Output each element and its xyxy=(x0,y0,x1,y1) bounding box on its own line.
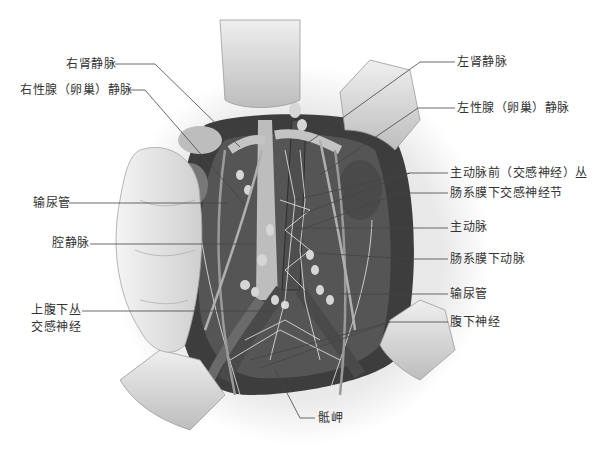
label-right-renal-vein: 右肾静脉 xyxy=(66,57,116,71)
label-left-gonadal-vein: 左性腺（卵巢）静脉 xyxy=(457,101,570,115)
kidney xyxy=(338,160,382,220)
label-hypogastric-nerve: 腹下神经 xyxy=(450,315,500,329)
label-preaortic-plexus: 主动脉前（交感神经）丛 xyxy=(450,166,588,180)
label-ureter-left: 输尿管 xyxy=(33,196,71,210)
label-vena-cava: 腔静脉 xyxy=(52,236,90,250)
label-inferior-mesenteric-artery: 肠系膜下动脉 xyxy=(450,252,525,266)
label-right-gonadal-vein: 右性腺（卵巢）静脉 xyxy=(20,83,133,97)
anatomy-figure: 右肾静脉 右性腺（卵巢）静脉 输尿管 腔静脉 上腹下丛 交感神经 左肾静脉 左性… xyxy=(0,0,594,457)
label-inferior-mesenteric-ganglion: 肠系膜下交感神经节 xyxy=(450,186,563,200)
bowel-loop xyxy=(178,126,222,154)
label-ureter-right: 输尿管 xyxy=(450,287,488,301)
label-superior-hypogastric-line2: 交感神经 xyxy=(31,320,81,334)
label-aorta: 主动脉 xyxy=(450,220,488,234)
retractor-top xyxy=(220,20,300,108)
label-superior-hypogastric-line1: 上腹下丛 xyxy=(31,303,81,317)
label-left-renal-vein: 左肾静脉 xyxy=(457,55,507,69)
label-sacral-promontory: 骶岬 xyxy=(318,411,343,425)
